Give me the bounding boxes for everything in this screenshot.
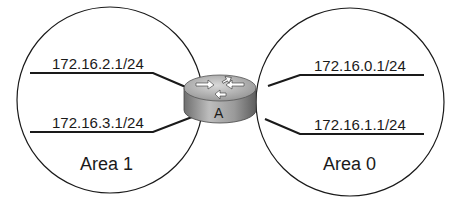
network-label-172-16-2: 172.16.2.1/24 [52,55,144,72]
ospf-area-diagram: 172.16.2.1/24 172.16.3.1/24 Area 1 172.1… [0,0,453,199]
area-1: 172.16.2.1/24 172.16.3.1/24 Area 1 [17,7,203,193]
router-label: A [214,105,224,121]
area-0-label: Area 0 [323,154,376,174]
network-link-172-16-0 [268,75,424,86]
network-link-172-16-2 [30,73,188,88]
network-label-172-16-0: 172.16.0.1/24 [314,57,406,74]
network-label-172-16-1: 172.16.1.1/24 [314,116,406,133]
area-1-label: Area 1 [80,154,133,174]
router-a: A [184,74,256,123]
network-label-172-16-3: 172.16.3.1/24 [52,114,144,131]
area-0: 172.16.0.1/24 172.16.1.1/24 Area 0 [256,8,444,196]
